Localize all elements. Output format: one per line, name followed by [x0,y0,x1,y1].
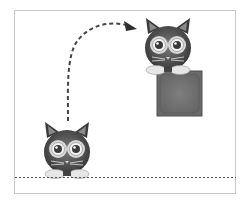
cat-on-floor [44,122,90,179]
jump-diagram [0,0,250,206]
jump-path-arrow [68,24,130,121]
cat-on-box [145,18,191,75]
arrowhead-icon [124,21,137,31]
box [157,71,202,116]
